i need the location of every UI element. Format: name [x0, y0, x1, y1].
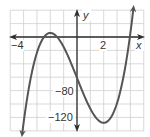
function-graph: y x −4 2 −80 −120	[0, 0, 150, 137]
y-tick-label-neg80: −80	[55, 85, 74, 97]
y-tick-label-neg120: −120	[48, 111, 73, 123]
x-axis-label: x	[135, 39, 142, 51]
x-tick-label-2: 2	[100, 39, 106, 51]
x-tick-label-neg4: −4	[11, 39, 24, 51]
